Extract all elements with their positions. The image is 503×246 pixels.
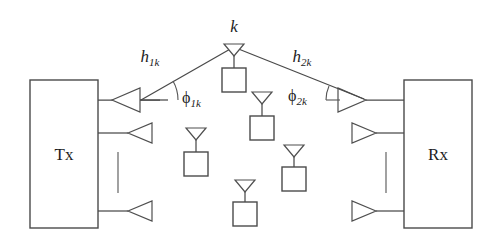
path-h1k-label: h1k	[141, 47, 161, 68]
scatterer-k-group: k	[222, 17, 246, 92]
rx-label: Rx	[428, 145, 448, 164]
phi2k-subscript: 2k	[296, 95, 308, 107]
phi1k-base: ϕ	[182, 89, 190, 107]
angle-arc-phi2k-icon	[326, 86, 329, 100]
scatterer-box-icon	[233, 202, 257, 226]
angle-phi1k-label: ϕ1k	[182, 89, 202, 109]
path-h2k-label: h2k	[293, 47, 313, 68]
h1k-base: h	[141, 47, 150, 66]
tx-antenna-3-icon	[128, 201, 152, 221]
tx-antenna-2-icon	[128, 123, 152, 143]
scatterer-right-mid	[282, 145, 306, 191]
scatterer-antenna-icon	[252, 92, 272, 104]
scatterer-bottom-center	[233, 180, 257, 226]
h2k-base: h	[293, 47, 302, 66]
h1k-subscript: 1k	[149, 56, 161, 68]
phi1k-subscript: 1k	[190, 97, 202, 109]
tx-antenna-1-icon	[112, 88, 140, 112]
scatterer-box-icon	[184, 152, 208, 176]
receiver-group: Rx	[338, 80, 472, 228]
tx-label: Tx	[55, 145, 74, 164]
scatterer-right-upper	[250, 92, 274, 140]
rx-antenna-3-icon	[352, 201, 376, 221]
scatterer-antenna-icon	[186, 128, 206, 140]
h2k-subscript: 2k	[301, 56, 313, 68]
scatterer-box-icon	[250, 116, 274, 140]
rx-antenna-1-icon	[338, 88, 366, 112]
scatterer-k-label: k	[230, 17, 238, 36]
rx-antenna-2-icon	[352, 123, 376, 143]
angle-arc-phi1k-icon	[173, 81, 178, 100]
phi2k-base: ϕ	[288, 87, 296, 105]
scatterer-antenna-icon	[284, 145, 304, 157]
transmitter-group: Tx	[30, 80, 168, 228]
scatterer-box-icon	[282, 167, 306, 191]
scatterer-antenna-icon	[235, 180, 255, 192]
scatterer-left-mid	[184, 128, 208, 176]
mimo-scattering-channel-diagram: Tx Rx	[0, 0, 503, 246]
angle-phi2k-label: ϕ2k	[288, 87, 308, 107]
scatterer-k-box-icon	[222, 68, 246, 92]
